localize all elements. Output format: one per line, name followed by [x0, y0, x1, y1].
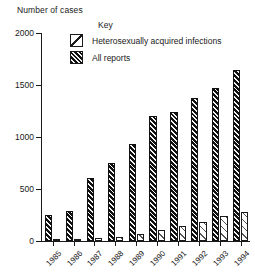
x-axis-tick — [136, 241, 137, 246]
chart-axis-title: Number of cases — [17, 5, 83, 15]
y-axis-tick — [36, 137, 41, 138]
bar-heterosexually-acquired — [241, 212, 248, 241]
bar-all-reports — [233, 70, 240, 241]
y-axis-tick — [36, 85, 41, 86]
x-axis-tick-label: 1988 — [107, 249, 126, 268]
bar-all-reports — [108, 163, 115, 241]
x-axis-tick — [241, 241, 242, 246]
bar-all-reports — [149, 116, 156, 241]
y-axis-tick — [36, 33, 41, 34]
bar-heterosexually-acquired — [179, 226, 186, 241]
bar-chart: Number of cases Key Heterosexually acqui… — [0, 0, 255, 280]
x-axis-tick-label: 1993 — [211, 249, 230, 268]
x-axis-tick — [157, 241, 158, 246]
y-axis-tick-label: 500 — [20, 184, 34, 194]
bar-all-reports — [45, 215, 52, 241]
bar-heterosexually-acquired — [137, 234, 144, 241]
bar-all-reports — [170, 112, 177, 241]
bar-heterosexually-acquired — [74, 239, 81, 241]
legend-title: Key — [98, 20, 221, 30]
bar-heterosexually-acquired — [116, 237, 123, 241]
x-axis-tick — [74, 241, 75, 246]
x-axis-tick — [53, 241, 54, 246]
x-axis-tick-label: 1987 — [86, 249, 105, 268]
x-axis-tick — [220, 241, 221, 246]
y-axis-tick-label: 1000 — [15, 132, 34, 142]
y-axis-tick-label: 2000 — [15, 28, 34, 38]
x-axis-tick-label: 1985 — [44, 249, 63, 268]
bar-all-reports — [66, 211, 73, 241]
x-axis-tick-label: 1989 — [128, 249, 147, 268]
x-axis-tick — [94, 241, 95, 246]
bar-all-reports — [212, 88, 219, 241]
bar-heterosexually-acquired — [53, 239, 60, 241]
bar-heterosexually-acquired — [158, 230, 165, 241]
x-axis-tick-label: 1986 — [65, 249, 84, 268]
x-axis-tick-label: 1991 — [169, 249, 188, 268]
x-axis-tick — [199, 241, 200, 246]
bar-heterosexually-acquired — [95, 238, 102, 241]
x-axis-tick-label: 1992 — [190, 249, 209, 268]
bar-all-reports — [191, 98, 198, 241]
y-axis-tick — [36, 189, 41, 190]
x-axis-tick — [115, 241, 116, 246]
bar-all-reports — [87, 178, 94, 241]
bar-heterosexually-acquired — [199, 222, 206, 241]
bar-heterosexually-acquired — [220, 216, 227, 241]
y-axis-tick-label: 1500 — [15, 80, 34, 90]
y-axis-tick-label: 0 — [29, 236, 34, 246]
x-axis-line — [41, 241, 250, 242]
x-axis-tick — [178, 241, 179, 246]
plot-area: 0500100015002000 — [41, 33, 250, 241]
y-axis-tick — [36, 241, 41, 242]
x-axis-tick-label: 1990 — [149, 249, 168, 268]
bar-all-reports — [129, 144, 136, 241]
x-axis-tick-label: 1994 — [232, 249, 251, 268]
